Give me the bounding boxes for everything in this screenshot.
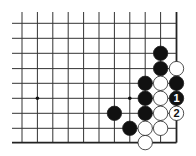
black-stone-disc — [138, 76, 152, 90]
black-stone-disc — [169, 76, 183, 90]
white-stone — [169, 61, 183, 75]
white-stone-disc — [153, 91, 167, 105]
white-stone-disc — [138, 121, 152, 135]
black-stone — [138, 106, 152, 120]
white-stone: 2 — [169, 106, 183, 120]
black-stone-disc — [138, 106, 152, 120]
white-stone-disc — [138, 135, 152, 149]
white-stone — [138, 135, 152, 149]
move-number-label: 1 — [173, 92, 179, 104]
white-stone — [153, 121, 167, 135]
white-stone-disc — [169, 61, 183, 75]
move-number-label: 2 — [173, 107, 179, 119]
black-stone — [138, 91, 152, 105]
black-stone — [153, 46, 167, 60]
black-stone-disc — [153, 46, 167, 60]
white-stone-disc — [153, 106, 167, 120]
black-stone: 1 — [169, 91, 183, 105]
black-stone-disc — [107, 106, 121, 120]
black-stone — [123, 121, 137, 135]
white-stone-disc — [153, 76, 167, 90]
white-stone-disc — [153, 121, 167, 135]
white-stone — [153, 76, 167, 90]
white-stone — [138, 121, 152, 135]
black-stone — [153, 61, 167, 75]
go-board: 12 — [0, 0, 196, 156]
star-point — [128, 97, 132, 101]
black-stone — [107, 106, 121, 120]
white-stone — [153, 91, 167, 105]
board-grid — [12, 12, 177, 143]
black-stone-disc — [123, 121, 137, 135]
black-stone — [138, 76, 152, 90]
black-stone-disc — [153, 61, 167, 75]
black-stone — [169, 76, 183, 90]
black-stone-disc — [138, 91, 152, 105]
star-point — [36, 97, 40, 101]
white-stone — [153, 106, 167, 120]
